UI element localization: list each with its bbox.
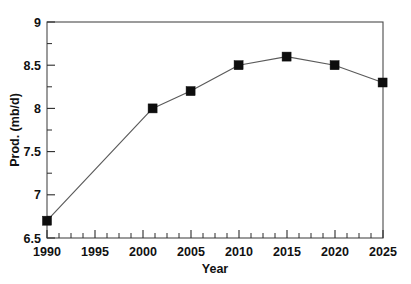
data-point-marker bbox=[282, 52, 291, 61]
y-tick-label: 8.5 bbox=[24, 59, 41, 73]
x-tick-label: 2020 bbox=[321, 245, 349, 259]
x-tick-label: 2025 bbox=[369, 245, 397, 259]
data-point-marker bbox=[186, 87, 195, 96]
x-tick-label: 2000 bbox=[129, 245, 157, 259]
y-tick-label: 9 bbox=[34, 16, 41, 30]
data-point-marker bbox=[330, 61, 339, 70]
y-axis-title: Prod. (mb/d) bbox=[8, 93, 22, 167]
data-point-marker bbox=[378, 78, 387, 87]
chart-background bbox=[0, 0, 411, 284]
y-tick-label: 7 bbox=[34, 188, 41, 202]
data-point-marker bbox=[43, 216, 52, 225]
x-tick-label: 2005 bbox=[177, 245, 205, 259]
production-line-chart: 9 8.5 8 7.5 7 6.5 1990 1995 2000 2005 20… bbox=[0, 0, 411, 284]
data-point-marker bbox=[148, 104, 157, 113]
figure-container: 9 8.5 8 7.5 7 6.5 1990 1995 2000 2005 20… bbox=[0, 0, 411, 284]
data-point-marker bbox=[234, 61, 243, 70]
x-tick-label: 2015 bbox=[273, 245, 301, 259]
y-tick-label: 7.5 bbox=[24, 145, 41, 159]
x-axis-title: Year bbox=[202, 262, 229, 276]
x-tick-label: 1990 bbox=[33, 245, 61, 259]
x-tick-label: 1995 bbox=[81, 245, 109, 259]
x-tick-label: 2010 bbox=[225, 245, 253, 259]
y-tick-label: 8 bbox=[34, 102, 41, 116]
y-tick-label: 6.5 bbox=[24, 232, 41, 246]
